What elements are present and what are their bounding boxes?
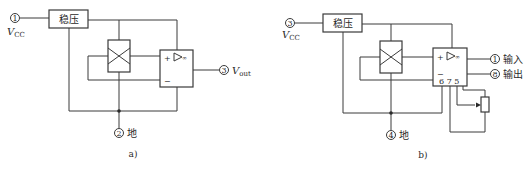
svg-text:4: 4 [388, 131, 393, 140]
svg-text:+: + [437, 53, 444, 62]
svg-text:3: 3 [287, 19, 292, 28]
input-label-b: 输入 [503, 53, 523, 65]
junction-dot-a [117, 109, 121, 113]
output-label-b: 输出 [503, 68, 523, 80]
svg-text:∞: ∞ [455, 53, 460, 60]
panel-a-circuit: 1 VCC 稳压 + − ∞ 3 Vout [7, 10, 251, 159]
wiper-arrow-icon [476, 103, 481, 108]
svg-text:−: − [164, 77, 171, 86]
potentiometer-icon [481, 97, 489, 112]
ground-label-a: 地 [127, 127, 137, 139]
svg-text:1: 1 [492, 55, 497, 64]
circuit-figure: 1 VCC 稳压 + − ∞ 3 Vout [0, 0, 530, 170]
regulator-label-a: 稳压 [59, 13, 79, 25]
svg-text:8: 8 [492, 70, 497, 79]
vcc-label-b: VCC [282, 29, 300, 42]
svg-text:2: 2 [116, 129, 121, 138]
vcc-label-a: VCC [7, 26, 25, 39]
svg-text:+: + [164, 54, 171, 63]
vout-label-a: Vout [232, 65, 251, 78]
ground-label-b: 地 [399, 129, 409, 141]
svg-text:∞: ∞ [182, 54, 187, 61]
junction-dot-b [389, 111, 393, 115]
caption-a: a) [129, 149, 138, 159]
pin-1-number: 1 [12, 14, 17, 23]
panel-b-circuit: 3 VCC 稳压 + − ∞ 6 7 5 1 输入 8 输出 [282, 14, 523, 160]
regulator-label-b: 稳压 [333, 17, 353, 29]
svg-text:3: 3 [221, 66, 226, 75]
amp-pin-numbers: 6 7 5 [439, 77, 459, 86]
caption-b: b) [418, 150, 427, 160]
